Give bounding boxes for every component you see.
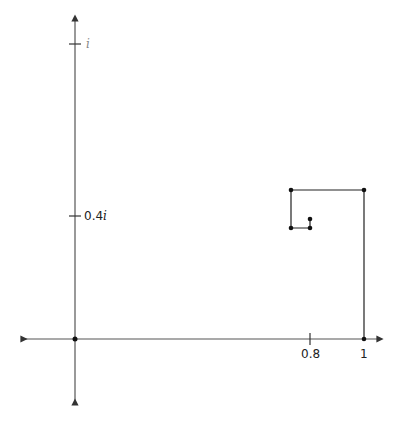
- tick-label-0-4i: 0.4i: [84, 209, 107, 223]
- tick-label-i: i: [86, 37, 90, 51]
- path-point: [289, 188, 294, 193]
- tick-label-0-8: 0.8: [301, 347, 320, 361]
- complex-plane-diagram: 0.8 1 0.4i i: [0, 0, 394, 427]
- spiral-path: [291, 190, 364, 339]
- path-point: [289, 226, 294, 231]
- path-point: [362, 337, 367, 342]
- path-point: [362, 188, 367, 193]
- tick-label-1: 1: [360, 347, 368, 361]
- path-point: [308, 217, 313, 222]
- origin-point: [73, 337, 78, 342]
- path-point: [308, 226, 313, 231]
